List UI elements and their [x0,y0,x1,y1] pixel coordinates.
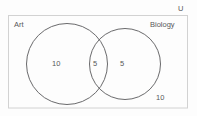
venn-diagram-figure: U Art Biology 10 5 5 10 [0,0,197,116]
region-count-art-only: 10 [52,60,60,68]
region-count-biology-only: 5 [120,60,124,68]
set-label-art: Art [14,21,24,29]
region-count-intersection: 5 [93,60,97,68]
set-label-biology: Biology [150,21,175,29]
set-circle-biology [90,29,161,100]
venn-diagram-canvas [0,0,197,116]
region-count-outside: 10 [156,94,164,102]
universal-set-label: U [178,5,183,13]
